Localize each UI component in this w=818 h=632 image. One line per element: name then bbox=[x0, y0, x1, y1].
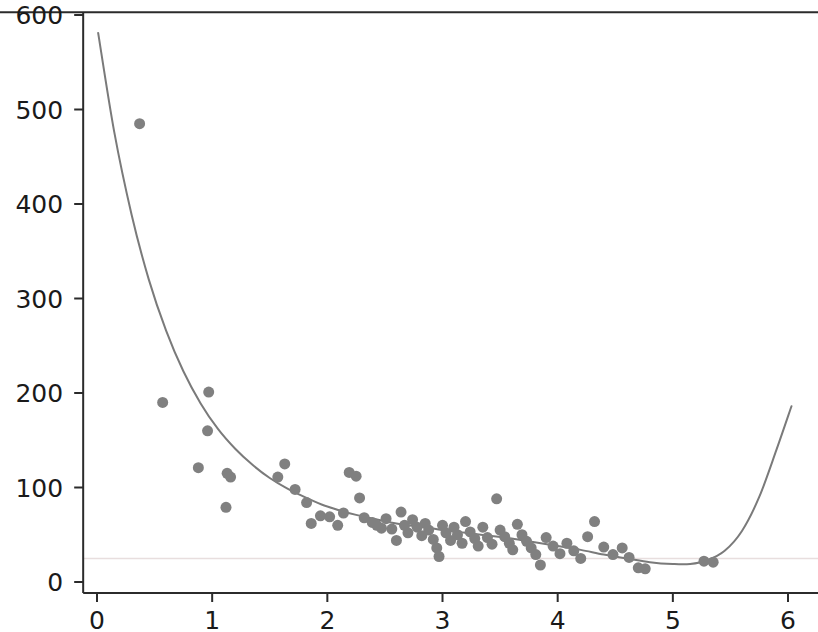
scatter-point bbox=[598, 542, 609, 553]
scatter-point bbox=[354, 492, 365, 503]
axis-spines-group bbox=[0, 12, 818, 593]
scatter-plot-figure: 0100200300400500600 0123456 bbox=[0, 0, 818, 632]
scatter-point bbox=[617, 542, 628, 553]
scatter-point bbox=[491, 493, 502, 504]
scatter-point bbox=[332, 520, 343, 531]
scatter-point bbox=[575, 553, 586, 564]
scatter-point bbox=[530, 549, 541, 560]
y-axis-tick-marks bbox=[74, 15, 83, 582]
scatter-point bbox=[376, 523, 387, 534]
fitted-curve bbox=[98, 33, 791, 564]
scatter-point bbox=[301, 497, 312, 508]
scatter-point bbox=[434, 551, 445, 562]
scatter-point bbox=[423, 525, 434, 536]
x-tick-label: 4 bbox=[550, 608, 566, 632]
x-tick-label: 6 bbox=[780, 608, 796, 632]
y-tick-label: 300 bbox=[0, 286, 63, 311]
scatter-point bbox=[460, 516, 471, 527]
y-tick-label: 100 bbox=[0, 475, 63, 500]
plot-canvas bbox=[0, 0, 818, 632]
scatter-point bbox=[582, 531, 593, 542]
scatter-point bbox=[487, 539, 498, 550]
x-tick-label: 3 bbox=[435, 608, 451, 632]
x-tick-label: 5 bbox=[665, 608, 681, 632]
scatter-point bbox=[220, 502, 231, 513]
x-tick-label: 0 bbox=[89, 608, 105, 632]
scatter-point bbox=[193, 462, 204, 473]
scatter-point bbox=[607, 549, 618, 560]
scatter-point bbox=[272, 472, 283, 483]
y-tick-label: 600 bbox=[0, 3, 63, 28]
scatter-point bbox=[386, 524, 397, 535]
scatter-point bbox=[338, 508, 349, 519]
scatter-point bbox=[554, 548, 565, 559]
scatter-point bbox=[134, 118, 145, 129]
scatter-point bbox=[477, 522, 488, 533]
scatter-point bbox=[306, 518, 317, 529]
scatter-point bbox=[512, 519, 523, 530]
scatter-point bbox=[708, 557, 719, 568]
scatter-point bbox=[381, 513, 392, 524]
scatter-point bbox=[402, 527, 413, 538]
scatter-point bbox=[541, 532, 552, 543]
scatter-point bbox=[589, 516, 600, 527]
y-tick-label: 400 bbox=[0, 192, 63, 217]
y-tick-label: 0 bbox=[0, 570, 63, 595]
scatter-points bbox=[134, 118, 719, 574]
scatter-point bbox=[640, 563, 651, 574]
scatter-point bbox=[391, 535, 402, 546]
y-tick-label: 200 bbox=[0, 381, 63, 406]
scatter-point bbox=[473, 541, 484, 552]
x-tick-label: 2 bbox=[319, 608, 335, 632]
x-tick-label: 1 bbox=[204, 608, 220, 632]
scatter-point bbox=[225, 472, 236, 483]
scatter-point bbox=[507, 544, 518, 555]
scatter-point bbox=[324, 511, 335, 522]
scatter-point bbox=[202, 425, 213, 436]
scatter-point bbox=[535, 559, 546, 570]
fitted-curve-path bbox=[98, 33, 791, 564]
scatter-point bbox=[351, 471, 362, 482]
scatter-point bbox=[290, 484, 301, 495]
scatter-point bbox=[457, 538, 468, 549]
scatter-point bbox=[157, 397, 168, 408]
scatter-point bbox=[396, 507, 407, 518]
y-tick-label: 500 bbox=[0, 97, 63, 122]
scatter-point bbox=[203, 387, 214, 398]
scatter-point bbox=[624, 552, 635, 563]
x-axis-tick-marks bbox=[97, 593, 788, 602]
scatter-point bbox=[279, 458, 290, 469]
